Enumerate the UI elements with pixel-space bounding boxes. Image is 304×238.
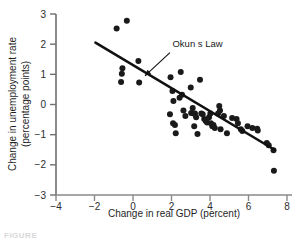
okun-law-arrow — [145, 53, 170, 76]
x-tick-label: −4 — [50, 201, 62, 212]
scatter-point — [170, 98, 176, 104]
y-tick-label: 2 — [40, 39, 46, 50]
scatter-point — [124, 18, 130, 24]
y-axis-title-line-2: (percentage points) — [20, 61, 31, 147]
y-tick-label: 3 — [40, 9, 46, 20]
scatter-point — [119, 65, 125, 71]
scatter-point — [118, 79, 124, 85]
scatter-point — [180, 108, 186, 114]
y-tick-label: −1 — [35, 129, 47, 140]
scatter-point — [168, 74, 174, 80]
scatter-point — [188, 85, 194, 91]
x-tick-label: −2 — [89, 201, 101, 212]
okun-law-trend-line — [95, 43, 274, 150]
scatter-point — [136, 79, 142, 85]
scatter-point — [194, 131, 200, 137]
y-axis-tick-labels: −3−2−10123 — [35, 9, 47, 201]
scatter-point — [197, 77, 203, 83]
y-tick-label: −2 — [35, 159, 47, 170]
scatter-point — [172, 122, 178, 128]
scatter-point — [167, 111, 173, 117]
y-tick-label: 0 — [40, 99, 46, 110]
scatter-point — [271, 168, 277, 174]
x-tick-label: 6 — [246, 201, 252, 212]
scatter-point — [191, 123, 197, 129]
scatter-point — [255, 127, 261, 133]
y-tick-label: −3 — [35, 190, 47, 201]
scatter-point — [212, 125, 218, 131]
scatter-point — [178, 69, 184, 75]
y-axis-ticks — [50, 14, 56, 195]
x-tick-label: 8 — [284, 201, 290, 212]
scatter-point — [114, 25, 120, 31]
scatter-point — [193, 114, 199, 120]
scatter-point — [182, 113, 188, 119]
y-axis-title-line-1: Change in unemployment rate — [7, 37, 18, 171]
scatter-point — [218, 126, 224, 132]
scatter-point — [224, 130, 230, 136]
figure-caption-fragment: FIGURE — [4, 231, 37, 238]
scatter-point — [119, 71, 125, 77]
scatter-point — [173, 130, 179, 136]
okun-law-annotation-label: Okun s Law — [172, 38, 222, 49]
scatter-point — [135, 58, 141, 64]
y-tick-label: 1 — [40, 69, 46, 80]
okun-law-figure: −3−2−10123 −4−202468 Okun s Law Change i… — [0, 0, 304, 238]
x-axis-title: Change in real GDP (percent) — [108, 208, 240, 219]
scatter-plot: −3−2−10123 −4−202468 Okun s Law Change i… — [0, 0, 304, 238]
scatter-point — [217, 108, 223, 114]
